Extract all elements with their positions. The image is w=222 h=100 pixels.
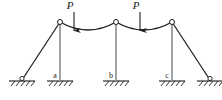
support-c-label: c <box>165 71 169 80</box>
load-label-2: P <box>132 0 140 11</box>
diagram-canvas: P P a <box>0 0 222 100</box>
arch-left-segment <box>60 22 116 30</box>
column-group <box>60 22 172 80</box>
hinge-mid-icon <box>114 20 119 25</box>
hinge-group <box>58 20 175 25</box>
support-b-hatching <box>105 81 129 86</box>
support-a-label: a <box>53 71 57 80</box>
structural-diagram-figure: P P a <box>0 0 222 100</box>
support-left-outer-hatching <box>11 81 35 86</box>
support-left-outer <box>9 76 35 86</box>
support-left-outer-pin-icon <box>20 76 24 80</box>
support-right-outer-hatching <box>199 81 222 86</box>
hinge-left-icon <box>58 20 63 25</box>
support-right-outer-pin-icon <box>208 76 212 80</box>
hinge-right-icon <box>170 20 175 25</box>
support-a-hatching <box>49 81 73 86</box>
arch-right-segment <box>116 22 172 30</box>
support-right-outer <box>197 76 222 86</box>
support-b-label: b <box>109 71 113 80</box>
support-c-hatching <box>161 81 185 86</box>
load-label-1: P <box>66 0 74 11</box>
brace-right <box>172 22 210 80</box>
